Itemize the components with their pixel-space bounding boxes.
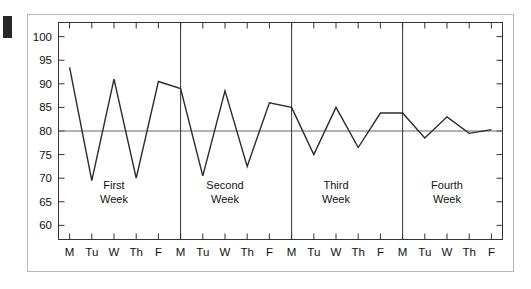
x-tick-label: F [266,246,273,258]
y-tick-label: 90 [39,78,52,90]
week-label-line1: Fourth [431,179,463,191]
x-axis-ticks-top [70,23,492,29]
x-tick-label: F [488,246,495,258]
x-tick-label: M [287,246,297,258]
x-tick-label: F [377,246,384,258]
week-group-labels: FirstWeekSecondWeekThirdWeekFourthWeek [100,179,463,205]
figure-container: 6065707580859095100 MTuWThFMTuWThFMTuWTh… [0,0,531,289]
x-tick-label: F [155,246,162,258]
y-tick-label: 100 [33,31,52,43]
y-tick-label: 95 [39,54,52,66]
x-tick-label: Th [129,246,142,258]
x-tick-label: Th [351,246,364,258]
x-tick-label: M [398,246,408,258]
x-tick-label: Tu [307,246,320,258]
data-series-line [70,67,492,180]
x-tick-label: Tu [85,246,98,258]
week-label-line2: Week [322,193,350,205]
week-label-line2: Week [211,193,239,205]
x-tick-label: W [220,246,231,258]
x-tick-label: W [331,246,342,258]
y-tick-label: 80 [39,125,52,137]
week-label-line1: Third [323,179,348,191]
y-tick-label: 75 [39,149,52,161]
y-axis-tick-labels: 6065707580859095100 [33,31,52,232]
x-tick-label: Th [462,246,475,258]
x-tick-label: Tu [196,246,209,258]
y-tick-label: 60 [39,219,52,231]
y-tick-label: 85 [39,101,52,113]
x-axis-tick-labels: MTuWThFMTuWThFMTuWThFMTuWThF [65,246,495,258]
x-tick-label: W [109,246,120,258]
x-tick-label: Th [240,246,253,258]
line-chart: 6065707580859095100 MTuWThFMTuWThFMTuWTh… [0,0,531,289]
week-label-line1: Second [206,179,243,191]
x-tick-label: Tu [418,246,431,258]
y-tick-label: 70 [39,172,52,184]
x-axis-ticks-bottom [70,234,492,240]
x-tick-label: M [176,246,186,258]
week-label-line2: Week [433,193,461,205]
week-label-line1: First [103,179,124,191]
y-tick-label: 65 [39,196,52,208]
x-tick-label: W [442,246,453,258]
week-label-line2: Week [100,193,128,205]
x-tick-label: M [65,246,75,258]
